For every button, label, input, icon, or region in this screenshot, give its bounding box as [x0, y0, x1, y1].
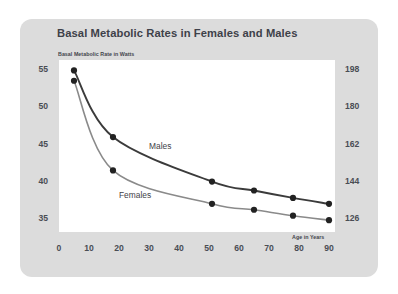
x-axis-tick: 20 [108, 243, 130, 253]
x-axis-tick: 70 [258, 243, 280, 253]
page-title: Basal Metabolic Rates in Females and Mal… [57, 27, 297, 39]
y-axis-tick-left: 55 [26, 64, 48, 74]
series-label-females: Females [119, 190, 151, 200]
x-axis-tick: 30 [138, 243, 160, 253]
y-axis-label: Basal Metabolic Rate in Watts [58, 51, 134, 57]
y-axis-tick-right: 162 [345, 139, 371, 149]
x-axis-tick: 80 [288, 243, 310, 253]
y-axis-tick-left: 40 [26, 176, 48, 186]
x-axis-tick: 10 [78, 243, 100, 253]
y-axis-tick-right: 198 [345, 64, 371, 74]
x-axis-tick: 40 [168, 243, 190, 253]
series-label-males: Males [149, 141, 171, 151]
y-axis-tick-right: 144 [345, 176, 371, 186]
y-axis-tick-right: 126 [345, 213, 371, 223]
plot-area [59, 60, 335, 232]
x-axis-tick: 90 [318, 243, 340, 253]
x-axis-tick: 0 [48, 243, 70, 253]
x-axis-label: Age in Years [292, 234, 324, 240]
chart-screenshot: Basal Metabolic Rates in Females and Mal… [0, 0, 398, 294]
y-axis-tick-left: 50 [26, 101, 48, 111]
y-axis-tick-right: 180 [345, 101, 371, 111]
x-axis-tick: 60 [228, 243, 250, 253]
y-axis-tick-left: 45 [26, 139, 48, 149]
x-axis-tick: 50 [198, 243, 220, 253]
y-axis-tick-left: 35 [26, 213, 48, 223]
